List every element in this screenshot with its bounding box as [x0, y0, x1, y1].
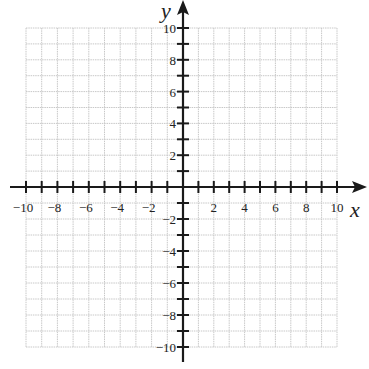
x-tick-label: 8 — [303, 200, 310, 215]
y-tick-label: −10 — [156, 340, 176, 355]
coordinate-plane: −10−8−6−4−2246810108642−2−4−6−8−10 x y — [0, 0, 369, 369]
x-tick-label: 6 — [272, 200, 279, 215]
x-tick-label: −4 — [110, 200, 124, 215]
y-tick-label: 10 — [163, 21, 176, 36]
x-tick-label: 2 — [211, 200, 218, 215]
x-tick-label: −2 — [142, 200, 156, 215]
y-tick-label: 4 — [170, 116, 177, 131]
x-tick-label: 10 — [331, 200, 344, 215]
x-tick-label: −8 — [47, 200, 61, 215]
x-tick-label: −6 — [79, 200, 93, 215]
y-tick-label: −2 — [162, 212, 176, 227]
x-tick-label: 4 — [241, 200, 248, 215]
y-axis-label: y — [159, 0, 171, 23]
axes — [10, 0, 367, 362]
y-tick-label: 2 — [170, 148, 177, 163]
x-axis-label: x — [349, 197, 360, 222]
y-tick-label: −8 — [162, 308, 176, 323]
x-tick-label: −10 — [13, 200, 33, 215]
y-tick-label: 6 — [170, 85, 177, 100]
y-tick-label: −4 — [162, 244, 176, 259]
y-tick-label: 8 — [170, 53, 177, 68]
y-tick-label: −6 — [162, 276, 176, 291]
